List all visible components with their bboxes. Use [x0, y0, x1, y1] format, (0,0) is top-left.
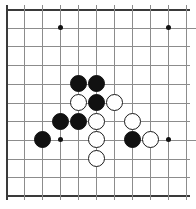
black-stone[interactable]	[88, 75, 105, 92]
black-stone[interactable]	[88, 94, 105, 111]
black-stone[interactable]	[52, 113, 69, 130]
black-stone[interactable]	[70, 75, 87, 92]
white-stone[interactable]	[70, 94, 87, 111]
white-stone[interactable]	[124, 113, 141, 130]
board-stones	[0, 0, 196, 209]
black-stone[interactable]	[124, 131, 141, 148]
white-stone[interactable]	[106, 94, 123, 111]
black-stone[interactable]	[70, 113, 87, 130]
go-board	[0, 0, 196, 209]
white-stone[interactable]	[88, 150, 105, 167]
white-stone[interactable]	[88, 113, 105, 130]
black-stone[interactable]	[34, 131, 51, 148]
white-stone[interactable]	[88, 131, 105, 148]
white-stone[interactable]	[142, 131, 159, 148]
